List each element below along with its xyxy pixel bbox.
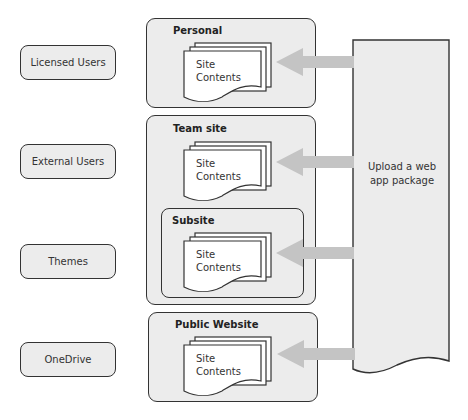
licensed-users-box: Licensed Users — [20, 45, 116, 80]
site-contents-doc-stack: Site Contents — [182, 140, 277, 205]
team-site-title: Team site — [173, 123, 227, 134]
onedrive-box: OneDrive — [20, 342, 116, 377]
doc-line-1: Site — [196, 59, 215, 70]
site-contents-doc-stack: Site Contents — [182, 335, 277, 400]
site-contents-doc-stack: Site Contents — [182, 231, 277, 296]
upload-label-line-1: Upload a web — [352, 160, 452, 174]
themes-box: Themes — [20, 244, 116, 279]
arrow-to-subsite-icon — [276, 238, 354, 268]
site-contents-doc-stack: Site Contents — [182, 41, 277, 106]
onedrive-label: OneDrive — [44, 354, 91, 365]
doc-line-2: Contents — [196, 366, 241, 377]
personal-title: Personal — [173, 25, 222, 36]
upload-label: Upload a web app package — [352, 160, 452, 188]
arrow-to-personal-icon — [276, 47, 354, 77]
arrow-to-public-website-icon — [277, 339, 355, 369]
doc-line-2: Contents — [196, 171, 241, 182]
team-site-container: Team site Site Contents Subsite Site Con… — [146, 115, 316, 305]
themes-label: Themes — [48, 256, 88, 267]
arrow-to-team-site-icon — [276, 147, 354, 177]
doc-line-1: Site — [196, 158, 215, 169]
upload-label-line-2: app package — [352, 174, 452, 188]
external-users-label: External Users — [32, 156, 105, 167]
doc-line-1: Site — [196, 353, 215, 364]
upload-package-document — [352, 39, 452, 391]
doc-line-1: Site — [196, 249, 215, 260]
doc-line-2: Contents — [196, 72, 241, 83]
doc-line-2: Contents — [196, 262, 241, 273]
subsite-title: Subsite — [172, 215, 214, 226]
public-website-title: Public Website — [175, 319, 258, 330]
external-users-box: External Users — [20, 144, 116, 179]
licensed-users-label: Licensed Users — [30, 57, 105, 68]
